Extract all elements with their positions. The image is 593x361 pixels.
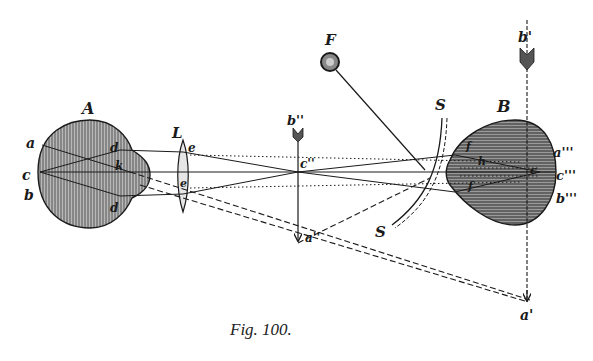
label-h: h bbox=[478, 155, 486, 168]
label-a1: a' bbox=[520, 307, 533, 323]
lens-l bbox=[178, 140, 189, 212]
label-a3: a''' bbox=[553, 145, 573, 160]
lamp-f bbox=[321, 53, 425, 170]
label-c: c bbox=[22, 167, 31, 183]
label-mirror-bottom: S bbox=[375, 223, 386, 241]
label-b2: b'' bbox=[287, 113, 304, 128]
arrow-b2-a2 bbox=[293, 128, 303, 240]
label-e-bottom: e bbox=[180, 177, 187, 190]
label-b: b bbox=[24, 187, 34, 203]
label-c2: c'' bbox=[300, 157, 315, 171]
optical-diagram: A B L F S S a b c d d k e e b'' c'' a'' … bbox=[0, 0, 593, 361]
figure-caption: Fig. 100. bbox=[229, 320, 292, 339]
label-lamp: F bbox=[324, 31, 337, 49]
label-b1: b' bbox=[518, 29, 532, 45]
label-d-top: d bbox=[110, 141, 119, 155]
label-e-top: e bbox=[188, 141, 196, 155]
mirror-s bbox=[392, 118, 447, 228]
label-eye-a: A bbox=[80, 99, 94, 118]
label-b3: b''' bbox=[556, 191, 577, 206]
label-d-bottom: d bbox=[110, 201, 119, 215]
label-a: a bbox=[26, 135, 35, 151]
label-mirror-top: S bbox=[435, 96, 446, 114]
eye-a bbox=[38, 120, 150, 228]
label-c3: c''' bbox=[556, 168, 576, 183]
label-eye-b: B bbox=[496, 97, 511, 116]
label-c-inner: c bbox=[530, 164, 537, 177]
label-lens: L bbox=[171, 124, 183, 142]
label-k: k bbox=[115, 159, 123, 173]
label-a2: a'' bbox=[305, 231, 320, 245]
